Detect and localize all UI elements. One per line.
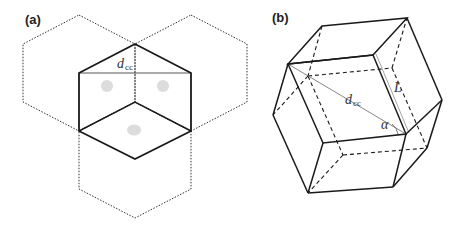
angle-label: α	[381, 117, 389, 132]
dcc-sub-b: cc	[353, 98, 361, 108]
figure: (a) d cc (	[0, 0, 459, 225]
neighbor-hexagons	[23, 15, 247, 218]
panel-b: (b) d cc L α	[272, 10, 442, 193]
particle-dots	[101, 80, 169, 136]
dcc-sub-a: cc	[125, 62, 133, 72]
dcc-label-b: d	[345, 92, 353, 107]
panel-a-label: (a)	[25, 12, 41, 27]
dcc-label-a: d	[117, 56, 125, 71]
panel-b-label: (b)	[272, 10, 289, 25]
panel-a: (a) d cc	[23, 12, 247, 218]
length-label: L	[393, 80, 402, 95]
